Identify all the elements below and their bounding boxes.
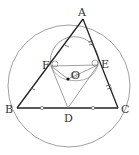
label-a: A bbox=[77, 6, 87, 19]
point-o bbox=[66, 77, 69, 80]
label-o: O bbox=[71, 69, 80, 82]
label-b: B bbox=[5, 103, 13, 116]
diagram-canvas: A B C D E F O bbox=[0, 0, 139, 155]
side-ab bbox=[17, 19, 83, 108]
mark-bd bbox=[40, 106, 43, 109]
tick-ab-1 bbox=[65, 45, 69, 47]
tick-ac-2a bbox=[106, 85, 111, 86]
circumcircle bbox=[8, 25, 130, 147]
tick-ac-2b bbox=[107, 88, 112, 89]
label-e: E bbox=[101, 58, 109, 71]
mark-dc bbox=[91, 106, 94, 109]
label-d: D bbox=[64, 112, 73, 125]
geometry-diagram: A B C D E F O bbox=[0, 0, 139, 155]
label-f: F bbox=[42, 59, 50, 72]
label-c: C bbox=[121, 103, 129, 116]
